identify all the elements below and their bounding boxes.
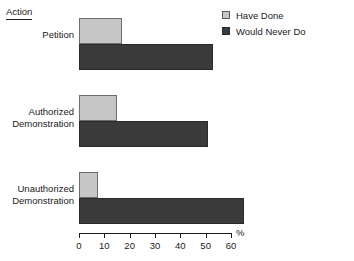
category-label-line-1: Petition	[0, 29, 74, 41]
x-axis-tick	[206, 233, 207, 238]
x-axis-tick	[155, 233, 156, 238]
bar-petition-would-never-do[interactable]	[79, 44, 213, 70]
x-axis-tick	[180, 233, 181, 238]
x-axis-tick-label: 40	[175, 240, 186, 251]
bar-petition-have-done[interactable]	[79, 18, 122, 44]
x-axis-tick	[130, 233, 131, 238]
category-label-line-2: Demonstration	[0, 118, 74, 130]
x-axis-tick-label: 60	[226, 240, 237, 251]
bar-unauthorized-demonstration-have-done[interactable]	[79, 172, 98, 198]
plot-area	[79, 10, 254, 230]
x-axis-tick-label: 20	[124, 240, 135, 251]
x-axis-tick	[231, 233, 232, 238]
bar-authorized-demonstration-have-done[interactable]	[79, 95, 117, 121]
x-axis-tick-label: 10	[99, 240, 110, 251]
x-axis-unit-label: %	[236, 227, 244, 238]
x-axis-tick-label: 0	[76, 240, 81, 251]
category-label-line-1: Unauthorized	[0, 183, 74, 195]
bar-authorized-demonstration-would-never-do[interactable]	[79, 121, 208, 147]
category-label-petition: Petition	[0, 29, 74, 41]
bar-chart: Action Have Done Would Never Do Petition…	[0, 0, 354, 261]
category-label-line-2: Demonstration	[0, 195, 74, 207]
x-axis-tick-label: 30	[150, 240, 161, 251]
bar-unauthorized-demonstration-would-never-do[interactable]	[79, 198, 244, 224]
x-axis-tick	[79, 233, 80, 238]
x-axis-tick-label: 50	[200, 240, 211, 251]
category-label-unauthorized-demonstration: Unauthorized Demonstration	[0, 183, 74, 206]
x-axis-tick	[104, 233, 105, 238]
chart-axis-title: Action	[6, 6, 32, 20]
category-label-line-1: Authorized	[0, 106, 74, 118]
category-label-authorized-demonstration: Authorized Demonstration	[0, 106, 74, 129]
